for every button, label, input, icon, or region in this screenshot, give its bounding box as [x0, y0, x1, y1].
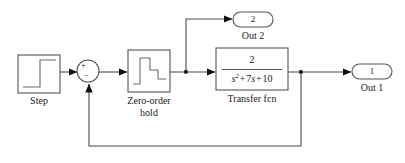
junction-dot-zoh-output	[184, 70, 187, 73]
transfer-fcn-numerator: 2	[216, 54, 288, 65]
step-block-label: Step	[18, 95, 60, 106]
out1-port-label: Out 1	[352, 82, 392, 93]
zero-order-hold-label-line2: hold	[113, 107, 185, 118]
out1-port-number: 1	[352, 66, 392, 76]
transfer-fcn-denominator: s2 + 7s + 10	[216, 72, 288, 84]
transfer-fcn-label: Transfer fcn	[212, 93, 292, 104]
out2-port-number: 2	[233, 14, 273, 24]
out2-port-label: Out 2	[233, 30, 273, 41]
sum-minus-sign: −	[84, 72, 89, 80]
junction-dot-transfer-output	[299, 70, 302, 73]
zero-order-hold-label-line1: Zero-order	[113, 95, 185, 106]
sum-plus-sign: +	[81, 62, 86, 70]
step-block-icon	[18, 55, 60, 93]
diagram-vector-layer	[0, 0, 405, 163]
block-diagram-canvas: Step + − Zero-order hold 2 s2 + 7s + 10 …	[0, 0, 405, 163]
zero-order-hold-block-icon	[128, 50, 170, 92]
